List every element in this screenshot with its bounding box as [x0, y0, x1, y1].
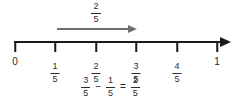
tick-4-5	[176, 42, 178, 52]
tick-2-5	[95, 42, 97, 52]
equals-sign: =	[120, 82, 126, 93]
equation-term1-fraction: 3 5	[81, 76, 90, 98]
fraction-numerator: 3	[131, 62, 140, 74]
fraction-numerator: 2	[131, 76, 140, 88]
tick-1	[216, 42, 218, 52]
tick-label-text: 1	[214, 56, 220, 67]
fraction-numerator: 4	[172, 62, 181, 74]
tick-3-5	[135, 42, 137, 52]
tick-0	[14, 42, 16, 52]
fraction-denominator: 5	[93, 14, 98, 25]
fraction-numerator: 1	[106, 76, 115, 88]
fraction-denominator: 5	[83, 88, 88, 99]
tick-label-1: 1	[214, 57, 220, 67]
number-line-arrowhead-icon	[220, 37, 231, 47]
minus-operator: −	[95, 82, 101, 93]
jump-arrow-line	[57, 28, 130, 30]
jump-arrow-label: 2 5	[86, 2, 106, 24]
fraction-denominator: 5	[133, 88, 138, 99]
fraction-denominator: 5	[108, 88, 113, 99]
equation-result-fraction: 2 5	[131, 76, 140, 98]
tick-label-0: 0	[12, 57, 18, 67]
fraction-numerator: 2	[91, 2, 100, 14]
fraction-numerator: 1	[50, 62, 59, 74]
equation-term2-fraction: 1 5	[106, 76, 115, 98]
fraction-numerator: 3	[81, 76, 90, 88]
fraction-numerator: 2	[91, 62, 100, 74]
number-line-axis	[14, 41, 222, 43]
number-line-diagram: 2 5 0 1 5 2 5 3 5 4 5	[0, 0, 235, 103]
tick-1-5	[54, 42, 56, 52]
jump-arrowhead-icon	[128, 25, 137, 33]
tick-label-text: 0	[12, 56, 18, 67]
equation: 3 5 − 1 5 = 2 5	[0, 76, 221, 98]
fraction-two-fifths: 2 5	[91, 2, 100, 24]
